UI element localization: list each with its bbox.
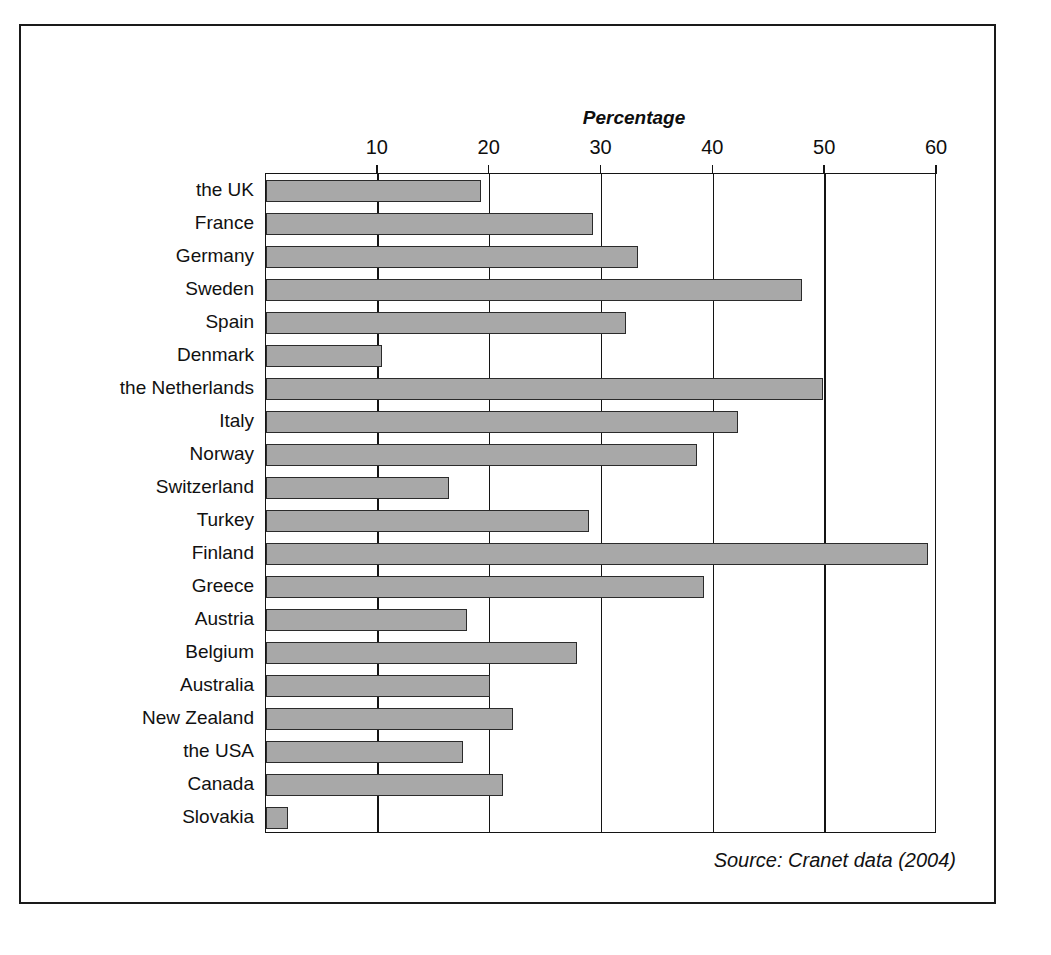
- bar-row: [266, 378, 937, 400]
- bar-row: [266, 411, 937, 433]
- plot-area: [265, 173, 936, 833]
- bar-row: [266, 279, 937, 301]
- bar: [266, 675, 490, 697]
- bar-row: [266, 708, 937, 730]
- y-axis-category-labels: the UKFranceGermanySwedenSpainDenmarkthe…: [21, 26, 254, 906]
- x-axis-tick-label: 40: [701, 136, 723, 159]
- bar-row: [266, 675, 937, 697]
- gridline: [489, 174, 491, 832]
- bar: [266, 609, 467, 631]
- x-axis-tick-label: 30: [589, 136, 611, 159]
- bar: [266, 642, 577, 664]
- gridline: [713, 174, 715, 832]
- x-axis-tick-label: 10: [366, 136, 388, 159]
- bar-row: [266, 543, 937, 565]
- bar: [266, 774, 503, 796]
- bar: [266, 576, 704, 598]
- category-label: Spain: [205, 311, 254, 333]
- category-label: the Netherlands: [120, 377, 254, 399]
- bar-row: [266, 642, 937, 664]
- bar-row: [266, 180, 937, 202]
- bar: [266, 543, 928, 565]
- bar-row: [266, 774, 937, 796]
- gridline: [601, 174, 603, 832]
- bar: [266, 477, 449, 499]
- bar-row: [266, 444, 937, 466]
- bar-row: [266, 576, 937, 598]
- x-axis-tick-label: 60: [925, 136, 947, 159]
- category-label: the USA: [183, 740, 254, 762]
- x-axis-tick-label: 50: [813, 136, 835, 159]
- bar-row: [266, 312, 937, 334]
- category-label: Greece: [192, 575, 254, 597]
- bar: [266, 180, 481, 202]
- x-axis-tick-label: 20: [478, 136, 500, 159]
- source-note: Source: Cranet data (2004): [714, 849, 956, 872]
- category-label: Canada: [187, 773, 254, 795]
- bar-row: [266, 741, 937, 763]
- x-axis-title: Percentage: [583, 107, 685, 129]
- bar-row: [266, 807, 937, 829]
- category-label: New Zealand: [142, 707, 254, 729]
- bar: [266, 246, 638, 268]
- category-label: Denmark: [177, 344, 254, 366]
- bar: [266, 378, 823, 400]
- category-label: Finland: [192, 542, 254, 564]
- bar: [266, 510, 589, 532]
- bar: [266, 444, 697, 466]
- bar: [266, 807, 288, 829]
- bar: [266, 279, 802, 301]
- bar-row: [266, 345, 937, 367]
- bar-row: [266, 213, 937, 235]
- category-label: Australia: [180, 674, 254, 696]
- bar: [266, 345, 382, 367]
- gridline: [377, 174, 379, 832]
- category-label: Slovakia: [182, 806, 254, 828]
- category-label: Belgium: [185, 641, 254, 663]
- category-label: Austria: [195, 608, 254, 630]
- category-label: Germany: [176, 245, 254, 267]
- category-label: Italy: [219, 410, 254, 432]
- bar: [266, 213, 593, 235]
- category-label: France: [195, 212, 254, 234]
- category-label: Sweden: [185, 278, 254, 300]
- bar-chart: Percentage 102030405060 the UKFranceGerm…: [21, 26, 998, 906]
- figure-frame: Percentage 102030405060 the UKFranceGerm…: [19, 24, 996, 904]
- bar-row: [266, 609, 937, 631]
- category-label: the UK: [196, 179, 254, 201]
- category-label: Turkey: [197, 509, 254, 531]
- category-label: Norway: [190, 443, 254, 465]
- gridline: [824, 174, 826, 832]
- bar: [266, 741, 463, 763]
- bar: [266, 312, 626, 334]
- category-label: Switzerland: [156, 476, 254, 498]
- bar: [266, 708, 513, 730]
- bar-row: [266, 477, 937, 499]
- bar-row: [266, 246, 937, 268]
- bar-row: [266, 510, 937, 532]
- bar: [266, 411, 738, 433]
